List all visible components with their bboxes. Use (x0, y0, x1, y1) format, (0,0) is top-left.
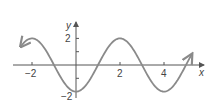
x-tick-label-neg2: −2 (25, 68, 37, 79)
x-tick-label-2: 2 (117, 68, 123, 79)
chart: −2 2 4 2 −2 x y (0, 0, 218, 111)
x-tick-label-4: 4 (161, 68, 167, 79)
y-axis-label: y (65, 20, 72, 31)
y-tick-label-2: 2 (65, 33, 71, 44)
y-tick-label-neg2: −2 (61, 91, 73, 102)
x-axis-label: x (198, 67, 205, 78)
